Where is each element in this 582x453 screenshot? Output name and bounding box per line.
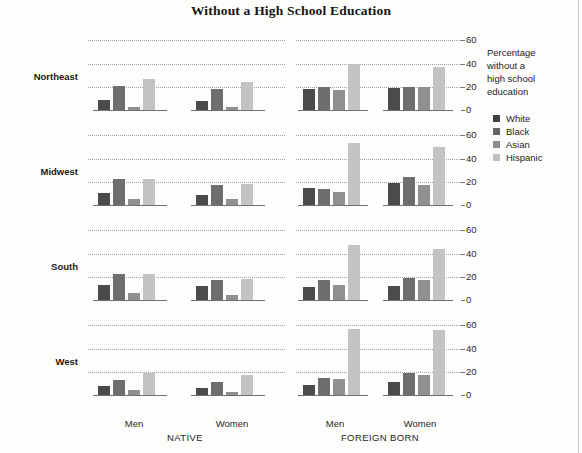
bar-hispanic[interactable]: [241, 375, 253, 395]
row-label-west: West: [8, 356, 78, 367]
y-axis-tick-mark: [461, 230, 465, 231]
bar-hispanic[interactable]: [143, 179, 155, 205]
bar-hispanic[interactable]: [348, 245, 360, 300]
bar-white[interactable]: [303, 385, 315, 395]
group-baseline: [298, 300, 368, 301]
bar-white[interactable]: [388, 286, 400, 300]
y-axis-tick-mark: [461, 395, 465, 396]
bar-asian[interactable]: [333, 192, 345, 205]
bar-black[interactable]: [113, 86, 125, 110]
legend-axis-title-line: without a: [487, 59, 577, 72]
bar-white[interactable]: [196, 195, 208, 205]
y-axis-tick-mark: [461, 300, 465, 301]
bar-black[interactable]: [211, 89, 223, 110]
gender-label-0: Men: [104, 418, 164, 429]
bar-black[interactable]: [403, 87, 415, 110]
group-baseline: [383, 110, 453, 111]
y-axis-tick-mark: [461, 372, 465, 373]
legend-swatch-icon: [493, 128, 500, 135]
bar-hispanic[interactable]: [241, 82, 253, 110]
bar-asian[interactable]: [418, 375, 430, 395]
bar-black[interactable]: [318, 189, 330, 205]
group-baseline: [191, 205, 265, 206]
bar-black[interactable]: [318, 378, 330, 395]
bar-black[interactable]: [113, 380, 125, 395]
legend-item-black[interactable]: Black: [493, 125, 579, 138]
legend-axis-title: Percentagewithout ahigh schooleducation: [487, 46, 577, 98]
bar-hispanic[interactable]: [433, 147, 445, 205]
bar-hispanic[interactable]: [348, 64, 360, 110]
bar-hispanic[interactable]: [433, 249, 445, 300]
group-baseline: [191, 110, 265, 111]
y-axis-tick-mark: [461, 277, 465, 278]
bar-white[interactable]: [196, 101, 208, 110]
bar-black[interactable]: [318, 280, 330, 300]
bar-white[interactable]: [388, 382, 400, 395]
legend-swatch-icon: [493, 115, 500, 122]
bar-black[interactable]: [403, 278, 415, 300]
bar-asian[interactable]: [333, 379, 345, 395]
legend-item-white[interactable]: White: [493, 112, 579, 125]
bar-black[interactable]: [113, 179, 125, 205]
group-baseline: [383, 205, 453, 206]
bar-white[interactable]: [98, 100, 110, 110]
bar-group-northeast-native-women: [196, 38, 268, 110]
y-axis-tick-label: 0: [466, 294, 490, 305]
bar-black[interactable]: [211, 382, 223, 395]
legend-swatch-icon: [493, 154, 500, 161]
bar-white[interactable]: [388, 88, 400, 110]
bar-white[interactable]: [303, 188, 315, 205]
bar-group-west-native-women: [196, 323, 268, 395]
strip-label-foreign-born: FOREIGN BORN: [325, 432, 435, 443]
bar-white[interactable]: [98, 386, 110, 395]
bar-black[interactable]: [113, 274, 125, 300]
bar-white[interactable]: [196, 388, 208, 395]
bar-black[interactable]: [403, 373, 415, 395]
bar-black[interactable]: [211, 185, 223, 205]
bar-white[interactable]: [98, 193, 110, 205]
y-axis-tick-mark: [461, 40, 465, 41]
bar-black[interactable]: [403, 177, 415, 205]
y-axis-tick-label: 40: [466, 343, 490, 354]
row-label-midwest: Midwest: [8, 166, 78, 177]
bar-asian[interactable]: [128, 293, 140, 300]
y-axis-tick-mark: [461, 205, 465, 206]
chart-page: Without a High School Education Northeas…: [0, 0, 582, 453]
bar-white[interactable]: [196, 286, 208, 300]
legend-item-hispanic[interactable]: Hispanic: [493, 151, 579, 164]
group-baseline: [93, 205, 167, 206]
bar-hispanic[interactable]: [143, 79, 155, 110]
legend-axis-title-line: Percentage: [487, 46, 577, 59]
bar-asian[interactable]: [418, 185, 430, 205]
bar-asian[interactable]: [333, 285, 345, 300]
bar-hispanic[interactable]: [348, 329, 360, 395]
bar-black[interactable]: [211, 280, 223, 300]
y-axis-tick-mark: [461, 64, 465, 65]
legend: Percentagewithout ahigh schooleducation …: [487, 46, 579, 164]
bar-hispanic[interactable]: [241, 279, 253, 300]
bar-hispanic[interactable]: [348, 143, 360, 205]
bar-hispanic[interactable]: [143, 274, 155, 300]
bar-white[interactable]: [303, 89, 315, 110]
bar-white[interactable]: [388, 183, 400, 205]
legend-item-asian[interactable]: Asian: [493, 138, 579, 151]
bar-group-south-foreign-born-men: [303, 228, 371, 300]
y-axis-tick-label: 20: [466, 271, 490, 282]
bar-hispanic[interactable]: [433, 330, 445, 395]
group-baseline: [93, 110, 167, 111]
bar-asian[interactable]: [333, 90, 345, 110]
bar-hispanic[interactable]: [241, 184, 253, 205]
bar-hispanic[interactable]: [143, 373, 155, 395]
group-baseline: [383, 300, 453, 301]
group-baseline: [298, 395, 368, 396]
bar-hispanic[interactable]: [433, 67, 445, 110]
bar-group-midwest-native-women: [196, 133, 268, 205]
bar-white[interactable]: [98, 285, 110, 300]
bar-group-south-native-men: [98, 228, 170, 300]
bar-asian[interactable]: [418, 87, 430, 110]
gender-label-3: Women: [390, 418, 450, 429]
bar-white[interactable]: [303, 287, 315, 300]
strip-label-native: NATIVE: [130, 432, 240, 443]
bar-asian[interactable]: [418, 280, 430, 300]
bar-black[interactable]: [318, 87, 330, 110]
